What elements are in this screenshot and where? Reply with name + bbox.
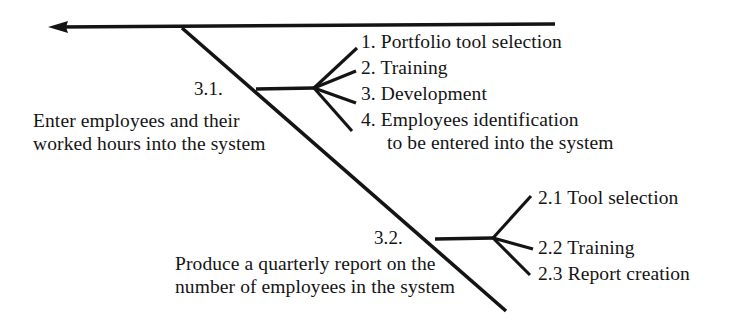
cause-item-2-3: 2.3 Report creation (538, 262, 690, 285)
effect-3-2-line-1: Produce a quarterly report on the (175, 253, 436, 274)
spine-arrowhead-icon (48, 21, 68, 33)
branch-number-3-2: 3.2. (374, 227, 403, 249)
branch-3-1-group (256, 48, 357, 131)
branch-number-3-1: 3.1. (194, 78, 223, 100)
effect-3-1-line-2: worked hours into the system (33, 132, 265, 155)
cause-item-4-line-2: to be entered into the system (361, 131, 614, 154)
effect-3-1-line-1: Enter employees and their (33, 110, 240, 131)
branch-3-1-ray-2 (314, 71, 356, 88)
branch-effect-text-3-2: Produce a quarterly report on the number… (175, 252, 455, 298)
cause-item-2-2: 2.2 Training (538, 236, 635, 259)
cause-item-1: 1. Portfolio tool selection (361, 30, 562, 53)
effect-3-2-line-2: number of employees in the system (175, 275, 455, 298)
branch-3-1-stub (256, 88, 314, 89)
branch-3-1-ray-1 (314, 48, 357, 88)
cause-item-4: 4. Employees identification to be entere… (361, 108, 614, 154)
cause-item-2: 2. Training (361, 56, 448, 79)
cause-item-4-line-1: 4. Employees identification (361, 109, 579, 130)
branch-3-2-ray-1 (493, 196, 531, 238)
branch-3-2-stub (435, 238, 493, 239)
cause-item-2-1: 2.1 Tool selection (538, 186, 678, 209)
cause-item-3: 3. Development (361, 82, 487, 105)
branch-effect-text-3-1: Enter employees and their worked hours i… (33, 109, 265, 155)
main-spine-line (58, 24, 555, 27)
fishbone-diagram-canvas: 3.1. Enter employees and their worked ho… (0, 0, 737, 326)
